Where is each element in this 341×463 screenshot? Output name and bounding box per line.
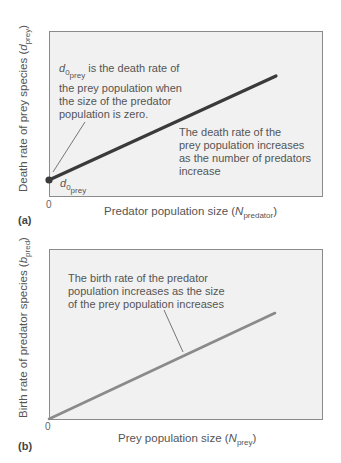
- chart-lines: [0, 0, 341, 463]
- data-line-b: [49, 313, 275, 419]
- intercept-dot: [45, 176, 52, 183]
- leader-line-b: [164, 310, 183, 352]
- data-line-a: [49, 76, 276, 180]
